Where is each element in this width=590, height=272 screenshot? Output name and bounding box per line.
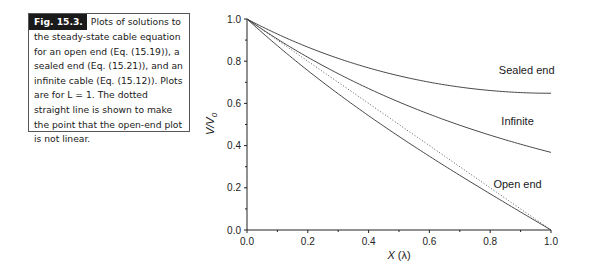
x-tick-label: 0.4 <box>362 236 376 247</box>
y-axis-label: V/V0 <box>204 112 219 135</box>
x-tick-label: 0.6 <box>422 236 436 247</box>
x-tick-label: 0.8 <box>483 236 497 247</box>
y-tick-label: 1.0 <box>227 14 241 25</box>
chart-axes: 0.00.20.40.60.81.00.00.20.40.60.81.0 <box>227 14 558 248</box>
x-tick-label: 0.2 <box>301 236 315 247</box>
label-sealed-end: Sealed end <box>499 64 555 76</box>
chart-annotations: Sealed endInfiniteOpen end <box>493 64 554 190</box>
y-tick-label: 0.0 <box>227 225 241 236</box>
y-tick-label: 0.2 <box>227 182 241 193</box>
curve-infinite <box>247 19 551 152</box>
y-tick-label: 0.4 <box>227 140 241 151</box>
x-tick-label: 0.0 <box>240 236 254 247</box>
y-tick-label: 0.8 <box>227 56 241 67</box>
x-axis-label: X (λ) <box>386 249 410 261</box>
y-tick-label: 0.6 <box>227 98 241 109</box>
label-open-end: Open end <box>493 178 541 190</box>
line-chart: 0.00.20.40.60.81.00.00.20.40.60.81.0 Sea… <box>0 0 590 272</box>
label-infinite: Infinite <box>501 115 533 127</box>
x-tick-label: 1.0 <box>544 236 558 247</box>
curve-sealed-end <box>247 19 551 93</box>
